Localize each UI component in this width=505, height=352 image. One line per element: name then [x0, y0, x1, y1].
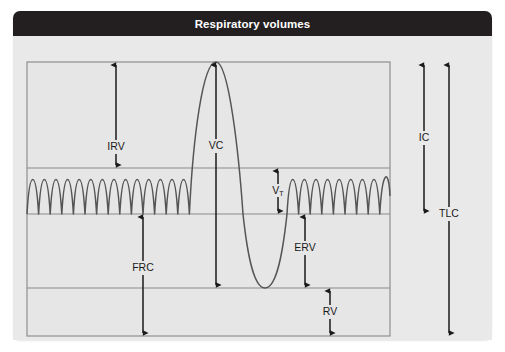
figure-card: Respiratory volumes	[13, 11, 492, 340]
ic-label: IC	[419, 131, 430, 143]
tlc-label: TLC	[439, 207, 459, 219]
figure-title-bar: Respiratory volumes	[13, 11, 492, 36]
irv-label: IRV	[107, 140, 124, 152]
vc-label: VC	[209, 139, 224, 151]
page-title: Respiratory volumes	[195, 18, 311, 30]
diagram-plot-area: IRV VC VT ERV	[13, 36, 492, 340]
vt-label-subscript: T	[279, 190, 284, 197]
vt-label-main: V	[272, 184, 279, 196]
frc-label: FRC	[132, 261, 154, 273]
chart-frame	[27, 62, 390, 336]
respiratory-volumes-diagram: IRV VC VT ERV	[13, 36, 492, 340]
rv-label: RV	[323, 305, 337, 317]
erv-label: ERV	[294, 241, 315, 253]
